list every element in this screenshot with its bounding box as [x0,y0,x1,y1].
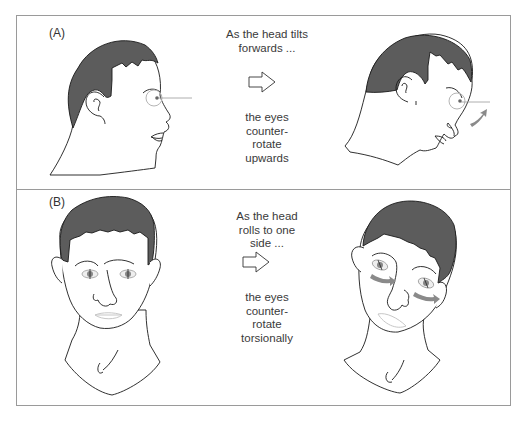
hollow-right-arrow-icon [243,252,269,272]
illustration-canvas [0,0,528,421]
hollow-right-arrow-icon [249,72,275,92]
upward-rotation-arrow-icon [470,109,487,127]
head-profile-tilted-illustration [345,34,473,165]
head-frontal-rolled-illustration [344,201,456,393]
head-frontal-upright-illustration [52,197,161,396]
head-profile-upright-illustration [50,41,170,175]
